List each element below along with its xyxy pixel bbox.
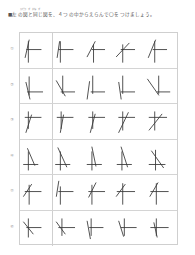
choice-figure[interactable] — [84, 69, 109, 105]
row-number: ⑤ — [8, 188, 16, 193]
choice-figure[interactable] — [84, 33, 109, 69]
reference-figure — [22, 211, 47, 247]
choice-figure[interactable] — [114, 104, 139, 140]
choice-figure[interactable] — [84, 104, 109, 140]
choice-figure[interactable] — [54, 175, 79, 211]
reference-figure — [22, 69, 47, 105]
line-figure-icon — [146, 175, 171, 211]
line-figure-icon — [114, 104, 139, 140]
row-number: ④ — [8, 153, 16, 158]
line-figure-icon — [22, 140, 47, 176]
instruction-text: ■左の図と同じ図を、４つの中からえらんで〇をつけましょう。 — [8, 11, 155, 17]
worksheet-row — [20, 33, 177, 69]
line-figure-icon — [54, 211, 79, 247]
column-divider — [52, 69, 53, 104]
line-figure-icon — [54, 175, 79, 211]
line-figure-icon — [22, 33, 47, 69]
column-divider — [52, 140, 53, 175]
line-figure-icon — [22, 211, 47, 247]
figure-grid — [19, 32, 178, 245]
line-figure-icon — [146, 140, 171, 176]
line-figure-icon — [146, 104, 171, 140]
column-divider — [52, 211, 53, 247]
line-figure-icon — [22, 104, 47, 140]
line-figure-icon — [114, 33, 139, 69]
line-figure-icon — [114, 69, 139, 105]
column-divider — [52, 175, 53, 210]
line-figure-icon — [22, 69, 47, 105]
line-figure-icon — [84, 175, 109, 211]
line-figure-icon — [84, 33, 109, 69]
worksheet-row — [20, 104, 177, 140]
choice-figure[interactable] — [146, 211, 171, 247]
choice-figure[interactable] — [114, 69, 139, 105]
line-figure-icon — [84, 211, 109, 247]
choice-figure[interactable] — [54, 211, 79, 247]
line-figure-icon — [84, 104, 109, 140]
line-figure-icon — [84, 140, 109, 176]
line-figure-icon — [114, 211, 139, 247]
choice-figure[interactable] — [114, 175, 139, 211]
row-number: ⑥ — [8, 224, 16, 229]
choice-figure[interactable] — [146, 33, 171, 69]
reference-figure — [22, 175, 47, 211]
choice-figure[interactable] — [54, 104, 79, 140]
choice-figure[interactable] — [54, 33, 79, 69]
line-figure-icon — [146, 211, 171, 247]
worksheet-row — [20, 211, 177, 247]
line-figure-icon — [114, 140, 139, 176]
row-number: ③ — [8, 117, 16, 122]
choice-figure[interactable] — [146, 104, 171, 140]
line-figure-icon — [54, 104, 79, 140]
choice-figure[interactable] — [114, 140, 139, 176]
line-figure-icon — [22, 175, 47, 211]
reference-figure — [22, 140, 47, 176]
line-figure-icon — [146, 69, 171, 105]
reference-figure — [22, 104, 47, 140]
worksheet-row — [20, 69, 177, 105]
reference-figure — [22, 33, 47, 69]
worksheet-row — [20, 140, 177, 176]
choice-figure[interactable] — [114, 33, 139, 69]
choice-figure[interactable] — [146, 140, 171, 176]
choice-figure[interactable] — [54, 69, 79, 105]
column-divider — [52, 104, 53, 139]
line-figure-icon — [114, 175, 139, 211]
choice-figure[interactable] — [114, 211, 139, 247]
line-figure-icon — [54, 140, 79, 176]
choice-figure[interactable] — [84, 175, 109, 211]
row-number: ② — [8, 82, 16, 87]
line-figure-icon — [146, 33, 171, 69]
line-figure-icon — [84, 69, 109, 105]
choice-figure[interactable] — [146, 175, 171, 211]
line-figure-icon — [54, 33, 79, 69]
column-divider — [52, 33, 53, 68]
line-figure-icon — [54, 69, 79, 105]
choice-figure[interactable] — [54, 140, 79, 176]
choice-figure[interactable] — [84, 211, 109, 247]
choice-figure[interactable] — [146, 69, 171, 105]
row-number: ① — [8, 46, 16, 51]
worksheet-row — [20, 175, 177, 211]
choice-figure[interactable] — [84, 140, 109, 176]
